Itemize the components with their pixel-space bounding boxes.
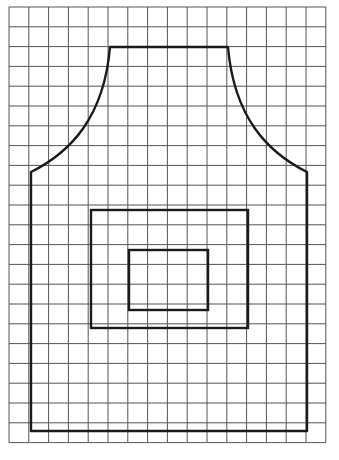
pocket-inner-outline [129, 250, 208, 310]
apron-pattern-diagram [0, 0, 339, 460]
apron-outline [31, 47, 307, 431]
grid-lines [9, 7, 326, 443]
